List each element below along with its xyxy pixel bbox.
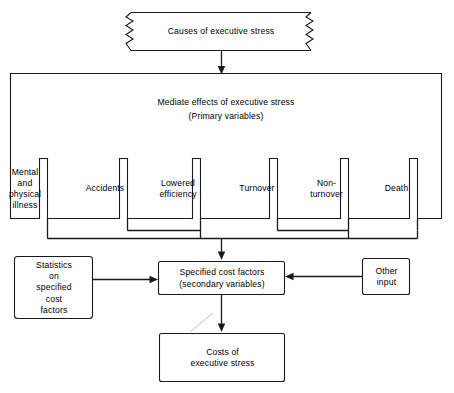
arrow-bus-to-specified-cost [218,239,225,261]
arrow-causes-to-mediate [218,51,225,75]
other-input-box-outline [363,259,410,295]
statistics-box-outline [15,257,93,319]
stray-mark [190,313,213,332]
arrow-specified-cost-to-costs [218,295,225,333]
mediate-effects-box-outline [11,74,442,219]
diagram-lines [0,0,454,393]
costs-box-outline [160,334,285,382]
diagram-canvas: Causes of executive stress Mediate effec… [0,0,454,393]
arrow-other-input-to-specified-cost [285,273,363,280]
specified-cost-box-outline [159,262,285,295]
collector-bus [48,219,418,239]
causes-box-outline [126,13,313,51]
arrow-statistics-to-specified-cost [93,276,159,283]
